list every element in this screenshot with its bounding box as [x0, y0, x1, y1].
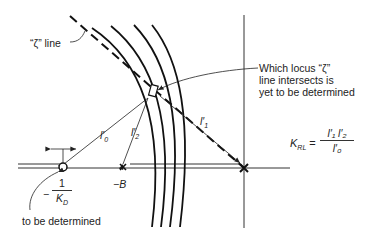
kd-fraction: 1 KD — [52, 177, 72, 206]
krl-fraction: l′₁ l′₂ l′₀ — [320, 127, 354, 154]
zeta-line-label: “ζ” line — [30, 37, 61, 49]
locus-leader — [158, 68, 258, 90]
pole-minus-b — [120, 164, 126, 170]
minus-b-label: −B — [113, 178, 126, 190]
krl-label: KRL = — [290, 137, 316, 154]
l2-label: l′2 — [131, 126, 139, 143]
zero-marker — [59, 163, 67, 171]
l0-label: l′0 — [100, 129, 108, 146]
which-locus-note: Which locus “ζ” line intersects is yet t… — [259, 62, 355, 98]
to-be-determined-label: to be determined — [22, 215, 101, 227]
kd-minus: − — [43, 188, 49, 200]
l1-label: l′1 — [200, 115, 208, 132]
zeta-line-leader — [70, 31, 85, 42]
